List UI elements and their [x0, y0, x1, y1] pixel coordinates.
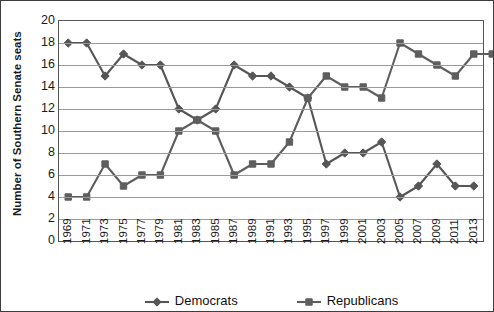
x-axis-tick-label: 1983: [190, 218, 202, 244]
y-axis-tick-label: 8: [48, 145, 55, 159]
x-axis-tick-label: 1987: [227, 218, 239, 244]
data-point: [452, 73, 458, 79]
y-axis-tick-label: 0: [48, 233, 55, 247]
data-point: [286, 139, 292, 145]
x-axis-tick-label: 1991: [264, 218, 276, 244]
x-axis-tick-label: 2005: [393, 218, 405, 244]
x-axis-tick-label: 1997: [319, 218, 331, 244]
legend-item-republicans[interactable]: Republicans: [296, 293, 399, 308]
gridline: [59, 65, 483, 66]
x-axis-tick-label: 2009: [430, 218, 442, 244]
x-axis-tick-label: 2007: [411, 218, 423, 244]
gridline: [59, 87, 483, 88]
series-line: [68, 43, 474, 197]
x-axis-tick-label: 2003: [375, 218, 387, 244]
legend-item-democrats[interactable]: Democrats: [144, 293, 238, 308]
gridline: [59, 153, 483, 154]
gridline: [59, 43, 483, 44]
gridline: [59, 197, 483, 198]
y-axis-tick-label: 18: [41, 35, 55, 49]
y-axis-title: Number of Southern Senate seats: [5, 1, 29, 246]
x-axis-tick-label: 2013: [467, 218, 479, 244]
x-axis-tick-label: 1993: [282, 218, 294, 244]
series-democrats: [64, 39, 478, 201]
x-axis-tick-label: 1989: [246, 218, 258, 244]
x-axis-tick-label: 1969: [61, 218, 73, 244]
plot-area: [58, 20, 484, 242]
data-point: [471, 51, 477, 57]
data-point: [305, 95, 311, 101]
y-axis-tick-label: 12: [41, 101, 55, 115]
data-point: [489, 51, 494, 57]
x-axis-tick-label: 1999: [338, 218, 350, 244]
x-axis-tick-label: 2011: [448, 219, 460, 244]
y-axis-tick-label: 6: [48, 167, 55, 181]
x-axis-tick-label: 1995: [301, 218, 313, 244]
series-republicans: [65, 40, 494, 200]
chart-container: Number of Southern Senate seats 02468101…: [0, 0, 494, 312]
x-axis-tick-label: 1977: [135, 218, 147, 244]
data-point: [194, 117, 200, 123]
data-point: [323, 73, 329, 79]
data-point: [415, 51, 421, 57]
data-point: [470, 182, 478, 190]
legend-diamond-marker-icon: [144, 294, 170, 306]
x-axis-tick-label: 1971: [80, 218, 92, 244]
y-axis-tick-label: 10: [41, 123, 55, 137]
x-axis-tick-labels: 1969197119731975197719791981198319851987…: [58, 244, 484, 290]
chart-legend: DemocratsRepublicans: [58, 289, 484, 311]
y-axis-tick-label: 4: [48, 189, 55, 203]
y-axis-tick-label: 20: [41, 13, 55, 27]
data-point: [249, 161, 255, 167]
x-axis-tick-label: 1979: [153, 218, 165, 244]
x-axis-tick-label: 1985: [209, 218, 221, 244]
x-axis-tick-label: 1975: [117, 218, 129, 244]
x-axis-tick-label: 2001: [356, 218, 368, 244]
y-axis-tick-label: 14: [41, 79, 55, 93]
y-axis-tick-labels: 02468101214161820: [27, 1, 55, 312]
x-axis-tick-label: 1981: [172, 218, 184, 244]
legend-item-label: Democrats: [175, 293, 238, 308]
gridline: [59, 131, 483, 132]
data-point: [268, 161, 274, 167]
legend-item-label: Republicans: [327, 293, 399, 308]
y-axis-tick-label: 2: [48, 211, 55, 225]
data-point: [120, 183, 126, 189]
legend-square-marker-icon: [296, 294, 322, 306]
data-point: [102, 161, 108, 167]
gridline: [59, 175, 483, 176]
data-point: [378, 95, 384, 101]
y-axis-tick-label: 16: [41, 57, 55, 71]
gridline: [59, 109, 483, 110]
x-axis-tick-label: 1973: [98, 218, 110, 244]
